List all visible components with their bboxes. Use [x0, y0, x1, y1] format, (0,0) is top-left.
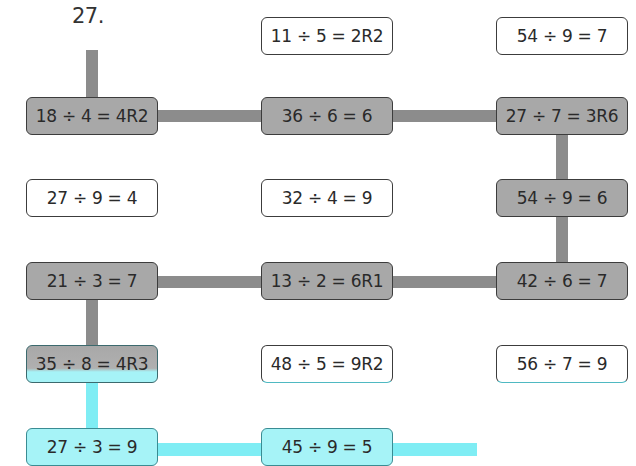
path-connector-c3-r3-r4 [556, 216, 568, 262]
division-box-r2-c2: 36 ÷ 6 = 6 [261, 97, 393, 135]
division-box-r5-c2: 48 ÷ 5 = 9R2 [261, 345, 393, 383]
division-box-r6-c1: 27 ÷ 3 = 9 [26, 428, 158, 466]
division-box-r2-c1: 18 ÷ 4 = 4R2 [26, 97, 158, 135]
division-box-r4-c1: 21 ÷ 3 = 7 [26, 262, 158, 300]
division-equation: 56 ÷ 7 = 9 [517, 354, 607, 374]
path-connector-r2-c2-c3 [393, 110, 497, 122]
path-connector-r6-c2-right [393, 443, 477, 456]
problem-number: 27. [72, 4, 104, 28]
path-connector-r2-c1-c2 [157, 110, 262, 122]
division-box-r3-c2: 32 ÷ 4 = 9 [261, 179, 393, 217]
path-connector-c1-r5-r6 [86, 382, 98, 429]
division-equation: 32 ÷ 4 = 9 [282, 188, 372, 208]
division-box-r4-c2: 13 ÷ 2 = 6R1 [261, 262, 393, 300]
path-start-connector [86, 50, 98, 98]
division-equation: 21 ÷ 3 = 7 [47, 271, 137, 291]
division-equation: 36 ÷ 6 = 6 [282, 106, 372, 126]
division-equation: 35 ÷ 8 = 4R3 [36, 354, 148, 374]
division-equation: 18 ÷ 4 = 4R2 [36, 106, 148, 126]
division-equation: 27 ÷ 7 = 3R6 [506, 106, 618, 126]
path-connector-r6-c1-c2 [157, 443, 262, 456]
path-connector-c3-r2-r3 [556, 134, 568, 180]
division-box-r3-c1: 27 ÷ 9 = 4 [26, 179, 158, 217]
division-box-r5-c3: 56 ÷ 7 = 9 [496, 345, 628, 383]
division-equation: 54 ÷ 9 = 7 [517, 26, 607, 46]
division-box-r3-c3: 54 ÷ 9 = 6 [496, 179, 628, 217]
path-connector-c1-r4-r5 [86, 298, 98, 346]
division-equation: 27 ÷ 9 = 4 [47, 188, 137, 208]
division-box-r4-c3: 42 ÷ 6 = 7 [496, 262, 628, 300]
division-box-r1-c3: 54 ÷ 9 = 7 [496, 17, 628, 55]
division-equation: 11 ÷ 5 = 2R2 [271, 26, 383, 46]
division-equation: 54 ÷ 9 = 6 [517, 188, 607, 208]
division-box-r1-c2: 11 ÷ 5 = 2R2 [261, 17, 393, 55]
division-box-r2-c3: 27 ÷ 7 = 3R6 [496, 97, 628, 135]
division-box-r5-c1: 35 ÷ 8 = 4R3 [26, 345, 158, 383]
division-equation: 27 ÷ 3 = 9 [47, 437, 137, 457]
division-equation: 48 ÷ 5 = 9R2 [271, 354, 383, 374]
division-equation: 45 ÷ 9 = 5 [282, 437, 372, 457]
division-box-r6-c2: 45 ÷ 9 = 5 [261, 428, 393, 466]
division-equation: 13 ÷ 2 = 6R1 [271, 271, 383, 291]
path-connector-r4-c1-c2 [157, 276, 262, 288]
path-connector-r4-c2-c3 [393, 276, 497, 288]
division-equation: 42 ÷ 6 = 7 [517, 271, 607, 291]
